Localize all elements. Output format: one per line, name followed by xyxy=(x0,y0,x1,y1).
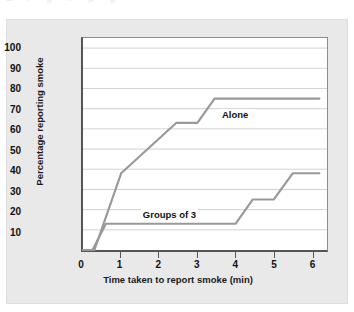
x-axis-title: Time taken to report smoke (min) xyxy=(7,274,349,285)
x-tick-label: 4 xyxy=(220,259,250,270)
figure: a r g n p g Percentage reporting smoke T… xyxy=(0,0,354,312)
x-tick-label: 1 xyxy=(105,259,135,270)
y-tick-label: 40 xyxy=(0,165,21,176)
series-line-groups-of-3 xyxy=(83,173,319,250)
x-tick-mark xyxy=(158,252,159,258)
series-label-groups-of-3: Groups of 3 xyxy=(141,209,198,220)
y-tick-label: 70 xyxy=(0,103,21,114)
x-tick-label: 0 xyxy=(66,259,96,270)
y-tick-label: 30 xyxy=(0,185,21,196)
y-tick-label: 100 xyxy=(0,42,21,53)
x-tick-label: 2 xyxy=(143,259,173,270)
y-axis-title: Percentage reporting smoke xyxy=(34,42,45,202)
x-tick-mark xyxy=(120,252,121,258)
x-tick-mark xyxy=(313,252,314,258)
x-tick-label: 5 xyxy=(259,259,289,270)
x-tick-mark xyxy=(274,252,275,258)
bleed-text-line: a r g n p g xyxy=(6,0,122,3)
y-tick-label: 10 xyxy=(0,226,21,237)
y-tick-label: 80 xyxy=(0,83,21,94)
x-tick-mark xyxy=(197,252,198,258)
chart-panel: Percentage reporting smoke Time taken to… xyxy=(6,19,348,304)
series-line-alone xyxy=(83,99,319,250)
x-tick-label: 3 xyxy=(182,259,212,270)
y-tick-label: 90 xyxy=(0,62,21,73)
page-bleed-text: a r g n p g xyxy=(0,0,354,16)
series-label-alone: Alone xyxy=(220,109,250,120)
y-tick-label: 20 xyxy=(0,206,21,217)
data-layer xyxy=(83,38,327,250)
y-tick-label: 50 xyxy=(0,144,21,155)
y-tick-label: 60 xyxy=(0,124,21,135)
plot-area xyxy=(81,37,328,252)
x-tick-label: 6 xyxy=(298,259,328,270)
x-tick-mark xyxy=(235,252,236,258)
